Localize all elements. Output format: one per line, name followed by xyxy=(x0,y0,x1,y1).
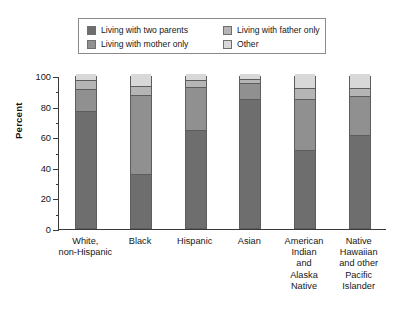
bar-segment xyxy=(131,96,151,176)
bar-segment xyxy=(295,89,315,101)
bar-segment xyxy=(350,136,370,228)
bar-segment xyxy=(186,74,206,81)
bar-segment xyxy=(350,74,370,89)
bar-0 xyxy=(75,76,97,229)
bar-segment xyxy=(240,100,260,228)
y-axis-minor-tick xyxy=(56,92,60,93)
x-axis-label-line: Hawaiian xyxy=(313,247,405,258)
y-axis-minor-tick xyxy=(56,215,60,216)
legend-item-father-only: Living with father only xyxy=(223,25,333,35)
y-axis-tick xyxy=(53,169,59,170)
y-axis-tick-label: 40 xyxy=(41,164,51,174)
bar-segment xyxy=(131,87,151,96)
legend-item-other: Other xyxy=(223,39,333,49)
bar-segment xyxy=(76,74,96,81)
bar-segment xyxy=(186,131,206,228)
x-axis-label-line: non-Hispanic xyxy=(39,247,131,258)
legend-swatch-father-only xyxy=(223,26,232,35)
legend-label-two-parents: Living with two parents xyxy=(101,25,188,35)
y-axis-tick-label: 0 xyxy=(46,225,51,235)
legend-swatch-two-parents xyxy=(87,26,96,35)
x-axis-label-line: Native xyxy=(313,236,405,247)
bar-segment xyxy=(76,81,96,90)
bar-segment xyxy=(350,89,370,98)
legend-grid: Living with two parents Living with fath… xyxy=(87,23,319,51)
y-axis-tick xyxy=(53,77,59,78)
y-axis-tick-label: 60 xyxy=(41,133,51,143)
y-axis-tick xyxy=(53,108,59,109)
y-axis-minor-tick xyxy=(56,123,60,124)
y-axis-tick-label: 80 xyxy=(41,103,51,113)
bar-segment xyxy=(131,74,151,87)
bar-segment xyxy=(295,100,315,151)
stacked-bar-chart: Living with two parents Living with fath… xyxy=(0,0,405,315)
y-axis-title: Percent xyxy=(13,102,24,139)
legend-swatch-mother-only xyxy=(87,40,96,49)
legend-item-mother-only: Living with mother only xyxy=(87,39,223,49)
x-axis-label-line: and other xyxy=(313,258,405,269)
chart-legend: Living with two parents Living with fath… xyxy=(78,18,326,54)
legend-item-two-parents: Living with two parents xyxy=(87,25,223,35)
y-axis-tick xyxy=(53,138,59,139)
legend-label-mother-only: Living with mother only xyxy=(101,39,188,49)
x-axis-label-5: NativeHawaiianand otherPacificIslander xyxy=(313,236,405,292)
bar-segment xyxy=(76,112,96,228)
bar-3 xyxy=(239,76,261,229)
bar-2 xyxy=(185,76,207,229)
y-axis-minor-tick xyxy=(56,184,60,185)
bar-segment xyxy=(295,151,315,228)
bar-4 xyxy=(294,76,316,229)
legend-label-father-only: Living with father only xyxy=(237,25,320,35)
bar-5 xyxy=(349,76,371,229)
bar-segment xyxy=(186,81,206,88)
bar-segment xyxy=(76,90,96,112)
x-axis-label-line: Islander xyxy=(313,281,405,292)
plot-area: 020406080100 xyxy=(58,77,386,230)
bar-segment xyxy=(240,84,260,100)
x-axis-label-line: Pacific xyxy=(313,270,405,281)
legend-swatch-other xyxy=(223,40,232,49)
y-axis-tick-label: 100 xyxy=(35,72,51,82)
legend-label-other: Other xyxy=(237,39,259,49)
bar-segment xyxy=(186,88,206,131)
bar-1 xyxy=(130,76,152,229)
y-axis-tick xyxy=(53,230,59,231)
bar-segment xyxy=(295,74,315,89)
bar-segment xyxy=(131,175,151,228)
bar-segment xyxy=(350,97,370,136)
y-axis-minor-tick xyxy=(56,154,60,155)
y-axis-tick-label: 20 xyxy=(41,194,51,204)
y-axis-tick xyxy=(53,199,59,200)
